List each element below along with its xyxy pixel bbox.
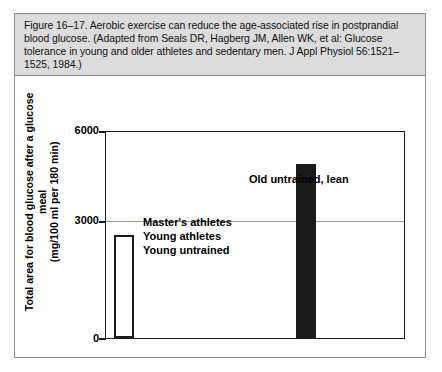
bar-label-young-athletes: Young athletes xyxy=(143,229,232,243)
y-tick-label-6000: 6000 xyxy=(53,124,99,136)
y-axis-title-line-2: (mg/100 ml per 180 min) xyxy=(48,142,60,263)
y-tick-label-0: 0 xyxy=(53,332,99,344)
y-axis-title-line-1: Total area for blood glucose after a glu… xyxy=(23,93,48,312)
bar-masters-young-athletes-untrained xyxy=(114,235,134,338)
chart-plot-area: Total area for blood glucose after a glu… xyxy=(15,76,425,357)
bar-label-masters-athletes: Master's athletes xyxy=(143,215,232,229)
bar-label-old-untrained-lean: Old untrained, lean xyxy=(249,172,349,186)
figure-card: Figure 16–17. Aerobic exercise can reduc… xyxy=(14,13,426,358)
bar-label-old-untrained-lean-text: Old untrained, lean xyxy=(249,172,349,186)
bar-label-group-left: Master's athletes Young athletes Young u… xyxy=(143,215,232,257)
figure-caption: Figure 16–17. Aerobic exercise can reduc… xyxy=(15,14,425,76)
y-tick-label-3000: 3000 xyxy=(53,214,99,226)
bar-label-young-untrained: Young untrained xyxy=(143,243,232,257)
figure-caption-text: Figure 16–17. Aerobic exercise can reduc… xyxy=(24,19,417,71)
bar-old-untrained-lean xyxy=(296,164,316,338)
y-axis-title: Total area for blood glucose after a glu… xyxy=(23,87,61,317)
